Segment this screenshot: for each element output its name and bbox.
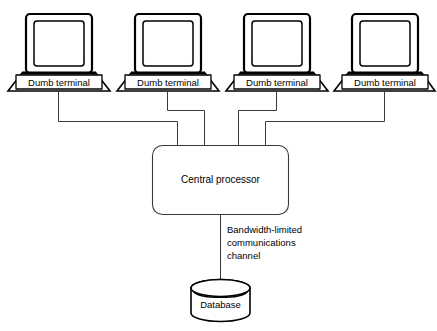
terminal-3[interactable]: Dumb terminal (226, 14, 328, 91)
terminal-4-screen (360, 21, 410, 66)
terminal-3-label: Dumb terminal (246, 77, 308, 88)
channel-label-line-1: Bandwidth-limited (227, 224, 302, 235)
terminal-4[interactable]: Dumb terminal (334, 14, 435, 91)
terminal-2-base-bar (131, 72, 205, 75)
architecture-diagram: Dumb terminal Dumb terminal Dumb termina… (0, 0, 437, 331)
terminal-1-screen (34, 21, 84, 66)
terminal-3-screen (252, 21, 302, 66)
channel-label-line-2: communications (227, 237, 296, 248)
central-processor-label: Central processor (181, 174, 261, 185)
channel-label: Bandwidth-limited communications channel (227, 224, 302, 261)
channel-label-line-3: channel (227, 250, 260, 261)
link-terminal-3 (239, 92, 277, 146)
terminal-1[interactable]: Dumb terminal (8, 14, 110, 91)
database-label: Database (200, 299, 241, 310)
link-terminal-2 (168, 92, 205, 146)
link-terminal-1 (59, 92, 178, 146)
terminal-2[interactable]: Dumb terminal (117, 14, 219, 91)
central-processor-node[interactable]: Central processor (153, 146, 289, 215)
terminal-3-base-bar (240, 72, 314, 75)
terminal-1-base-bar (22, 72, 96, 75)
diagram-canvas: Dumb terminal Dumb terminal Dumb termina… (0, 0, 437, 331)
terminal-4-label: Dumb terminal (354, 77, 416, 88)
database-node[interactable]: Database (191, 280, 250, 322)
terminal-4-base-bar (348, 72, 422, 75)
link-terminal-4 (266, 92, 385, 146)
terminal-1-label: Dumb terminal (28, 77, 90, 88)
terminal-2-screen (143, 21, 193, 66)
database-top-ellipse (191, 280, 250, 297)
terminal-2-label: Dumb terminal (137, 77, 199, 88)
